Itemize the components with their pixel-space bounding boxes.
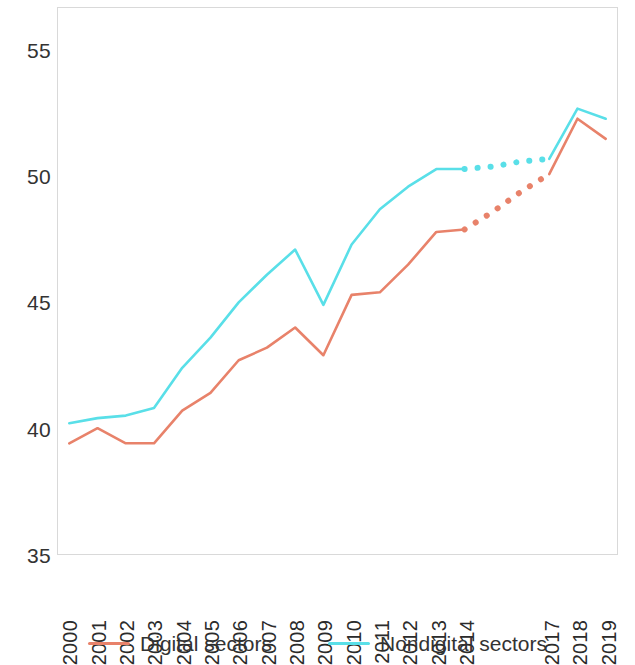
legend-label: Digital sectors	[140, 633, 272, 654]
y-axis: 3540455055	[0, 0, 51, 660]
legend-line-icon	[88, 642, 130, 645]
series-line	[69, 229, 464, 443]
y-tick-label: 40	[3, 418, 51, 439]
x-axis: 2000200120022003200420052006200720082009…	[57, 558, 618, 624]
plot-svg	[58, 8, 617, 554]
y-tick-label: 55	[3, 39, 51, 60]
y-tick-label: 45	[3, 292, 51, 313]
legend-label: Nondigital sectors	[380, 633, 547, 654]
series-line	[69, 169, 464, 423]
series-line-projected	[465, 174, 550, 229]
legend-entry[interactable]: Nondigital sectors	[328, 633, 547, 654]
series-line-projected	[465, 159, 550, 169]
chart-legend: Digital sectorsNondigital sectors	[0, 626, 635, 660]
y-tick-label: 50	[3, 166, 51, 187]
plot-area	[57, 7, 618, 555]
legend-entry[interactable]: Digital sectors	[88, 633, 272, 654]
legend-line-icon	[328, 642, 370, 645]
y-tick-label: 35	[3, 545, 51, 566]
